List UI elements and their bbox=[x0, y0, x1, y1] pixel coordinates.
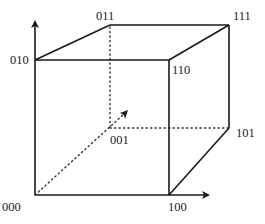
label-111: 111 bbox=[233, 9, 251, 23]
label-101: 101 bbox=[236, 126, 255, 140]
hidden-edges bbox=[35, 27, 229, 195]
edge-100-101 bbox=[169, 128, 229, 195]
label-100: 100 bbox=[168, 200, 187, 214]
boolean-cube-diagram: 000 100 010 110 001 101 011 111 bbox=[0, 0, 265, 224]
label-110: 110 bbox=[172, 63, 190, 77]
label-001: 001 bbox=[110, 133, 129, 147]
label-010: 010 bbox=[10, 53, 29, 67]
visible-edges bbox=[35, 22, 229, 195]
z-axis-arrowhead-icon bbox=[120, 110, 128, 119]
edge-110-111 bbox=[169, 25, 229, 60]
label-011: 011 bbox=[96, 9, 114, 23]
vertex-labels: 000 100 010 110 001 101 011 111 bbox=[2, 9, 255, 214]
edge-010-011 bbox=[35, 25, 110, 60]
label-000: 000 bbox=[2, 200, 21, 214]
